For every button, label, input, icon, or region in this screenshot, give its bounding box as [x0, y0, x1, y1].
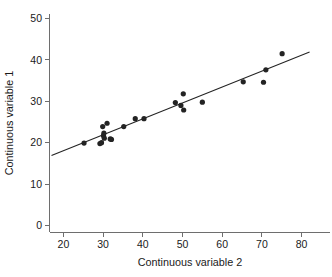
data-point	[102, 136, 107, 141]
data-point	[104, 121, 109, 126]
x-tick-label: 50	[177, 238, 189, 250]
data-point	[133, 116, 138, 121]
x-axis-ticks: 20 30 40 50 60 70 80	[58, 233, 308, 251]
data-point	[181, 91, 186, 96]
scatter-plot-figure: 0 10 20 30 40 50 20 30 40 50 60	[0, 0, 332, 277]
x-tick-label: 60	[216, 238, 228, 250]
data-point	[181, 107, 186, 112]
x-tick-label: 70	[256, 238, 268, 250]
data-point	[100, 124, 105, 129]
y-tick-label: 30	[30, 95, 42, 107]
data-point	[261, 80, 266, 85]
y-tick-label: 40	[30, 54, 42, 66]
data-point	[101, 131, 106, 136]
data-point	[241, 79, 246, 84]
data-point	[99, 140, 104, 145]
y-tick-label: 0	[36, 219, 42, 231]
axes-group	[50, 14, 331, 233]
data-point	[280, 51, 285, 56]
data-points-group	[81, 51, 284, 146]
y-tick-label: 50	[30, 12, 42, 24]
data-point	[173, 100, 178, 105]
y-tick-label: 10	[30, 178, 42, 190]
data-point	[178, 103, 183, 108]
x-tick-label: 40	[137, 238, 149, 250]
x-tick-label: 30	[97, 238, 109, 250]
data-point	[121, 124, 126, 129]
x-axis-title: Continuous variable 2	[138, 256, 242, 268]
x-tick-label: 80	[296, 238, 308, 250]
y-axis-ticks: 0 10 20 30 40 50	[30, 12, 49, 231]
data-point	[141, 116, 146, 121]
data-point	[109, 137, 114, 142]
data-point	[263, 67, 268, 72]
y-tick-label: 20	[30, 136, 42, 148]
data-point	[200, 100, 205, 105]
data-point	[81, 141, 86, 146]
x-tick-label: 20	[58, 238, 70, 250]
y-axis-title: Continuous variable 1	[3, 71, 15, 175]
plot-canvas: 0 10 20 30 40 50 20 30 40 50 60	[0, 0, 332, 277]
